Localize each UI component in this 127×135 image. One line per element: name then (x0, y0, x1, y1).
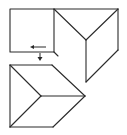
folded-prism (54, 9, 118, 82)
result-cube-view (10, 65, 85, 127)
folding-diagram (0, 0, 127, 135)
flat-square (10, 9, 54, 52)
left-arrow (30, 45, 46, 49)
down-arrow (38, 53, 43, 61)
